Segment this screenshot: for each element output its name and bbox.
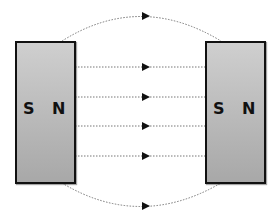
arrow-right-icon	[142, 63, 150, 71]
north-pole-label: N	[52, 101, 65, 117]
south-pole-label: S	[23, 101, 35, 117]
south-pole-label: S	[213, 101, 225, 117]
left-bar-magnet: S N	[15, 41, 76, 184]
arrow-right-icon	[142, 202, 150, 210]
arrow-right-icon	[142, 122, 150, 130]
north-pole-label: N	[242, 101, 255, 117]
right-bar-magnet: S N	[205, 41, 266, 184]
arrow-right-icon	[142, 152, 150, 160]
field-line-arc-bottom	[62, 183, 221, 207]
field-line-arc-top	[62, 17, 221, 42]
arrow-right-icon	[142, 93, 150, 101]
magnet-field-diagram: S N S N	[0, 0, 280, 221]
arrow-right-icon	[142, 12, 150, 20]
